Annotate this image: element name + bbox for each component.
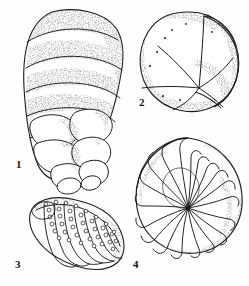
figure-1-specimen — [24, 10, 125, 196]
plate-canvas — [0, 0, 249, 286]
figure-4-specimen — [135, 138, 242, 259]
figure-2-specimen — [137, 11, 241, 111]
figure-3-specimen — [27, 198, 124, 270]
illustration-plate: 1 2 3 4 — [0, 0, 249, 286]
figure-1-label: 1 — [16, 159, 22, 170]
figure-3-label: 3 — [15, 259, 21, 270]
figure-2-label: 2 — [139, 97, 145, 108]
figure-4-umbilicus — [186, 206, 191, 211]
figure-4-label: 4 — [133, 259, 139, 270]
